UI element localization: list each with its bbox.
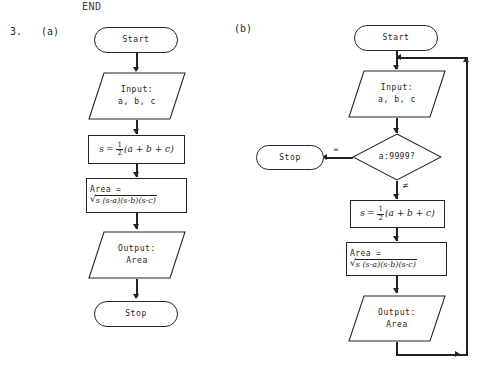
branch-label-not-equal: ≠	[402, 181, 409, 190]
fraction-denominator: 2	[116, 150, 122, 157]
fraction-denominator: 2	[377, 215, 383, 222]
flowchart-a-start-terminal: Start	[94, 27, 178, 53]
flowchart-a-s-process: s = 1 2 (a + b + c)	[88, 135, 185, 164]
flowchart-b-input-line1: Input:	[378, 82, 416, 94]
flowchart-b-decision-node: a:9999?	[352, 133, 442, 181]
flowchart-a-input-node: Input: a, b, c	[88, 72, 186, 120]
flowchart-a-area-process: Area = √ s (s-a)(s-b)(s-c)	[86, 178, 187, 213]
area-radical: √ s (s-a)(s-b)(s-c)	[90, 195, 157, 206]
part-a-label: (a)	[41, 26, 59, 37]
flowchart-b-stop-terminal: Stop	[256, 145, 324, 170]
flowchart-b-s-formula: s = 1 2 (a + b + c)	[360, 206, 434, 222]
flowchart-b-output-line2: Area	[378, 319, 416, 331]
flowchart-a-stop-label: Stop	[125, 308, 147, 320]
arrowhead-a-scalc-area	[133, 172, 139, 177]
loop-segment-top-left	[398, 57, 468, 59]
flowchart-a-stop-terminal: Stop	[94, 301, 178, 327]
flowchart-a-s-formula: s = 1 2 (a + b + c)	[99, 142, 173, 158]
one-half-fraction: 1 2	[116, 142, 122, 158]
flowchart-b-area-formula: Area = √ s (s-a)(s-b)(s-c)	[347, 249, 446, 270]
flowchart-a-output-line1: Output:	[118, 243, 156, 255]
area-label: Area =	[350, 249, 446, 259]
flowchart-b-input-line2: a, b, c	[378, 94, 416, 106]
arrowhead-b-area-output	[393, 288, 399, 293]
arrowhead-loop-bottom	[455, 351, 460, 357]
flowchart-a-area-formula: Area = √ s (s-a)(s-b)(s-c)	[87, 185, 186, 206]
s-rhs: (a + b + c)	[124, 143, 174, 156]
s-lhs: s	[360, 207, 365, 220]
flowchart-a-input-line2: a, b, c	[118, 96, 156, 108]
arrowhead-loop-into-input	[396, 54, 401, 60]
flowchart-b-input-node: Input: a, b, c	[348, 70, 446, 118]
s-rhs: (a + b + c)	[385, 207, 435, 220]
s-equals: =	[106, 143, 114, 156]
area-radical: √ s (s-a)(s-b)(s-c)	[350, 259, 417, 270]
flowchart-b-input-text: Input: a, b, c	[378, 82, 416, 105]
arrowhead-b-decision-scalc	[393, 194, 399, 199]
arrowhead-a-output-stop	[133, 294, 139, 299]
flowchart-a-output-text: Output: Area	[118, 243, 156, 266]
arrowhead-a-area-output	[133, 224, 139, 229]
flowchart-a-input-line1: Input:	[118, 84, 156, 96]
flowchart-b-stop-label: Stop	[279, 152, 301, 164]
exercise-number: 3.	[10, 26, 22, 37]
part-b-label: (b)	[234, 23, 252, 34]
flowchart-a-output-line2: Area	[118, 255, 156, 267]
loop-segment-right-up	[466, 57, 468, 355]
flowchart-a-start-label: Start	[122, 34, 149, 46]
s-lhs: s	[99, 143, 104, 156]
connector-b-decision-stop	[326, 157, 353, 159]
area-radicand: s (s-a)(s-b)(s-c)	[355, 259, 417, 270]
flowchart-b-s-process: s = 1 2 (a + b + c)	[350, 200, 445, 228]
area-radicand: s (s-a)(s-b)(s-c)	[95, 195, 157, 206]
one-half-fraction: 1 2	[377, 206, 383, 222]
arrowhead-a-input-scalc	[133, 129, 139, 134]
flowchart-b-decision-label: a:9999?	[379, 151, 416, 163]
branch-label-equal: =	[333, 146, 339, 154]
flowchart-b-output-line1: Output:	[378, 307, 416, 319]
flowchart-a-input-text: Input: a, b, c	[118, 84, 156, 107]
flowchart-b-start-terminal: Start	[354, 25, 438, 51]
flowchart-b-area-process: Area = √ s (s-a)(s-b)(s-c)	[346, 242, 447, 276]
end-label: END	[82, 1, 102, 12]
arrowhead-b-scalc-area	[393, 236, 399, 241]
s-equals: =	[367, 207, 375, 220]
flowchart-a-output-node: Output: Area	[88, 231, 186, 279]
area-label: Area =	[90, 185, 186, 195]
flowchart-b-start-label: Start	[382, 32, 409, 44]
flowchart-b-output-text: Output: Area	[378, 307, 416, 330]
worksheet-page: END 3. (a) (b) Start Input: a, b, c s	[0, 0, 479, 372]
flowchart-b-output-node: Output: Area	[348, 295, 446, 342]
